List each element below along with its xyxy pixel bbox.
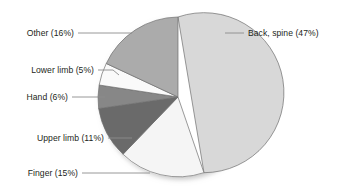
- slice-label-upper-limb: Upper limb (11%): [37, 133, 104, 143]
- slice-label-back-spine: Back, spine (47%): [248, 28, 319, 38]
- pie-chart-page: Back, spine (47%) Finger (15%) Upper lim…: [0, 0, 346, 193]
- slice-label-lower-limb: Lower limb (5%): [31, 65, 94, 75]
- slice-label-hand: Hand (6%): [26, 92, 68, 102]
- slice-label-finger: Finger (15%): [28, 168, 78, 178]
- slice-label-other: Other (16%): [27, 28, 74, 38]
- pie-chart: Back, spine (47%) Finger (15%) Upper lim…: [0, 0, 346, 193]
